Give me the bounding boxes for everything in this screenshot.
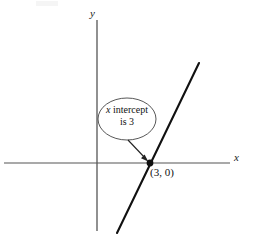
intercept-point-label: (3, 0) bbox=[150, 166, 174, 178]
callout-arrow bbox=[128, 140, 148, 161]
callout-line-1-rest: intercept bbox=[110, 104, 147, 115]
figure-canvas: y x (3, 0) x intercept is 3 bbox=[0, 0, 268, 249]
x-axis-label: x bbox=[234, 152, 239, 163]
graphed-line bbox=[117, 63, 199, 233]
y-axis-label: y bbox=[90, 8, 95, 19]
callout-line-1: x intercept bbox=[98, 104, 156, 116]
callout-text: x intercept is 3 bbox=[98, 104, 156, 128]
callout-line-2: is 3 bbox=[98, 116, 156, 128]
